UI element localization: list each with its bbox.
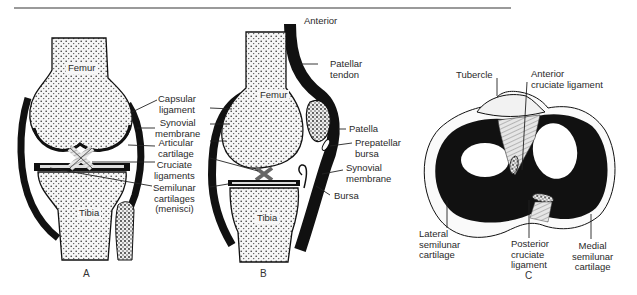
semilunar-cartilages-label: Semilunar cartilages (menisci) xyxy=(153,183,196,215)
panel-c-caption: C xyxy=(525,270,532,281)
anterior-cruciate-label: Anterior cruciate ligament xyxy=(531,69,603,90)
medial-semilunar-label: Medial semilunar cartilage xyxy=(572,241,613,273)
lateral-semilunar-label: Lateral semilunar cartilage xyxy=(419,229,460,261)
patellar-tendon-label: Patellar tendon xyxy=(330,59,362,80)
synovial-membrane-b-label: Synovial membrane xyxy=(346,163,391,184)
anterior-label: Anterior xyxy=(304,16,337,27)
synovial-membrane-label: Synovial membrane xyxy=(155,118,200,139)
panel-b-caption: B xyxy=(260,268,267,279)
tibia-label-b: Tibia xyxy=(255,213,279,224)
articular-cartilage-label: Articular cartilage xyxy=(158,138,194,159)
posterior-cruciate-label: Posterior cruciate ligament xyxy=(511,239,549,271)
bursa-label: Bursa xyxy=(334,191,359,202)
femur-label-b: Femur xyxy=(258,90,289,101)
capsular-ligament-label: Capsular ligament xyxy=(158,94,196,115)
cruciate-ligaments-label: Cruciate ligaments xyxy=(154,160,195,181)
femur-label-a: Femur xyxy=(66,63,97,74)
tubercle-label: Tubercle xyxy=(456,70,493,81)
panel-c-drawing xyxy=(424,78,615,239)
prepatellar-bursa-label: Prepatellar bursa xyxy=(355,138,401,159)
tibia-label-a: Tibia xyxy=(77,208,101,219)
patella-label: Patella xyxy=(349,124,378,135)
panel-a-caption: A xyxy=(83,268,90,279)
